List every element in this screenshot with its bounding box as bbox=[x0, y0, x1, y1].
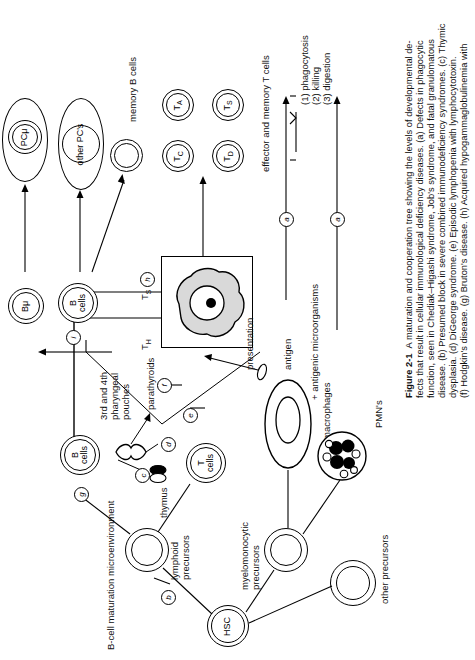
defect-marker-g: g bbox=[74, 487, 89, 502]
caption-line-3: disease. (b) Presumed block in severe co… bbox=[437, 24, 447, 398]
defect-marker-e: e bbox=[183, 408, 198, 423]
caption-line-0: Figure 2-1 A maturation and cooperation … bbox=[404, 40, 414, 398]
defect-marker-i: i bbox=[66, 330, 81, 345]
caption-line-4: dysplasia. (d) DiGeorge syndrome. (e) Ep… bbox=[448, 56, 458, 398]
caption-line-1: fects that result in cellular immunologi… bbox=[415, 40, 425, 398]
caption-line-2: function, seen in Chediak–Higashi syndro… bbox=[426, 39, 436, 398]
defect-marker-c: c bbox=[135, 468, 150, 483]
figure-number: Figure 2-1 bbox=[404, 354, 414, 398]
defect-marker-d: d bbox=[161, 437, 176, 452]
caption-line-5: (f) Hodgkin's disease. (g) Bruton's dise… bbox=[459, 44, 469, 398]
defect-marker-b: b bbox=[161, 590, 176, 605]
label-presentation: presentation bbox=[245, 318, 255, 370]
figure-page: PCμ other PC's memory B cells TA TS TC T… bbox=[0, 0, 475, 660]
defect-marker-a1: a bbox=[279, 212, 294, 227]
defect-marker-f: f bbox=[157, 378, 172, 393]
label-antigen: antigen bbox=[283, 339, 293, 370]
defect-marker-h: h bbox=[140, 272, 155, 287]
defect-marker-a2: a bbox=[330, 212, 345, 227]
